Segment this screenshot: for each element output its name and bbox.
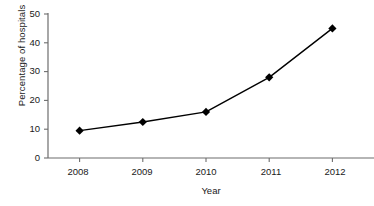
tick-marks [44, 14, 332, 162]
plot-area [0, 0, 374, 206]
line-chart: Percentage of hospitals 50 40 30 20 10 0… [0, 0, 374, 206]
data-point-marker [139, 118, 147, 126]
data-point-markers [76, 24, 337, 134]
data-point-marker [202, 108, 210, 116]
data-point-marker [76, 127, 84, 135]
